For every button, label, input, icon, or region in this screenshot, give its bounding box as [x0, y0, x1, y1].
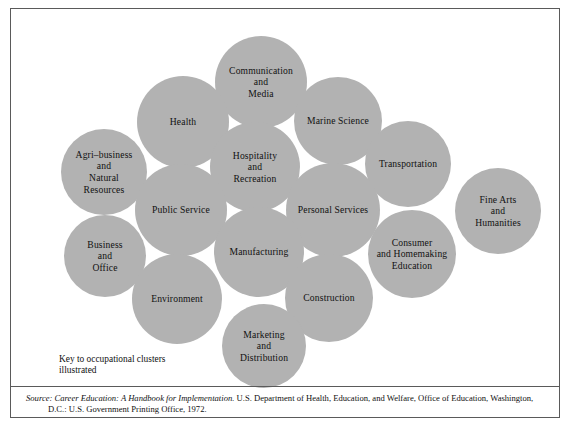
- key-note: Key to occupational clusters illustrated: [59, 354, 279, 377]
- cluster-bubble-label: Hospitality and Recreation: [229, 150, 281, 185]
- cluster-bubble-label: Environment: [147, 293, 207, 305]
- source-note: Source: Career Education: A Handbook for…: [26, 393, 546, 416]
- figure-frame: Communication and MediaHealthMarine Scie…: [10, 8, 560, 418]
- cluster-bubble-label: Marine Science: [303, 115, 373, 127]
- cluster-bubble-label: Personal Services: [294, 204, 373, 216]
- source-title: Career Education: A Handbook for Impleme…: [55, 393, 235, 403]
- cluster-bubble-label: Health: [166, 116, 200, 128]
- figure-page: Communication and MediaHealthMarine Scie…: [0, 0, 572, 429]
- cluster-bubble: Public Service: [135, 164, 227, 256]
- cluster-bubble: Agri–business and Natural Resources: [61, 129, 147, 215]
- cluster-bubble: Environment: [132, 254, 222, 344]
- cluster-bubble-label: Consumer and Homemaking Education: [373, 237, 452, 272]
- cluster-bubble-label: Manufacturing: [226, 246, 293, 258]
- cluster-bubble-label: Agri–business and Natural Resources: [72, 149, 137, 195]
- occupational-cluster-diagram: Communication and MediaHealthMarine Scie…: [11, 9, 561, 385]
- cluster-bubble-label: Communication and Media: [225, 65, 297, 100]
- cluster-bubble-label: Business and Office: [83, 239, 126, 274]
- cluster-bubble-label: Public Service: [148, 204, 214, 216]
- source-imprint: D.C.: U.S. Government Printing Office, 1…: [48, 404, 546, 415]
- cluster-bubble-label: Transportation: [375, 158, 441, 170]
- cluster-bubble: Consumer and Homemaking Education: [368, 210, 456, 298]
- cluster-bubble-label: Construction: [299, 292, 358, 304]
- source-lead: Source:: [26, 393, 52, 403]
- cluster-bubble: Fine Arts and Humanities: [455, 168, 541, 254]
- cluster-bubble-label: Fine Arts and Humanities: [471, 194, 525, 229]
- cluster-bubble: Transportation: [365, 121, 451, 207]
- cluster-bubble: Communication and Media: [215, 36, 307, 128]
- source-divider: [10, 386, 560, 387]
- source-publisher: U.S. Department of Health, Education, an…: [237, 393, 534, 403]
